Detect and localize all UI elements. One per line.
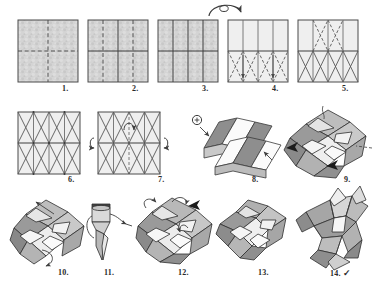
- step-label-4: 4.: [272, 84, 278, 93]
- step-label-3: 3.: [202, 84, 208, 93]
- step-label-6: 6.: [68, 175, 74, 184]
- step-label-1: 1.: [62, 84, 68, 93]
- step-figure-6: [18, 111, 80, 175]
- step-figure-5: [298, 20, 358, 82]
- step-label-5: 5.: [342, 84, 348, 93]
- step-label-7: 7.: [158, 175, 164, 184]
- step-figure-1: [18, 20, 78, 82]
- step-figure-4: [228, 20, 288, 82]
- step-label-14: 14.✓: [330, 268, 351, 278]
- step-figure-3: [158, 20, 218, 82]
- step-label-8: 8.: [252, 175, 258, 184]
- origami-diagram-canvas: [0, 0, 375, 286]
- step-figure-7: [90, 112, 168, 174]
- step-label-2: 2.: [132, 84, 138, 93]
- completed-check-icon: ✓: [343, 268, 351, 278]
- step-label-13: 13.: [258, 268, 269, 277]
- step-label-11: 11.: [104, 268, 114, 277]
- step-label-10: 10.: [58, 268, 69, 277]
- step-label-12: 12.: [178, 268, 189, 277]
- step-figure-2: [88, 20, 148, 82]
- step-label-9: 9.: [344, 175, 350, 184]
